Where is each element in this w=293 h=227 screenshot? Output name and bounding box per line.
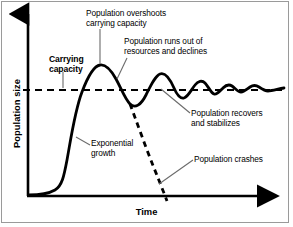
leader-crashes <box>159 160 193 184</box>
population-growth-figure: Population overshoots carrying capacity … <box>0 0 293 227</box>
annotation-population-crashes: Population crashes <box>194 155 263 165</box>
annotation-population-overshoots: Population overshoots carrying capacity <box>86 9 166 28</box>
population-crash-curve <box>130 104 167 201</box>
population-curve <box>29 65 284 195</box>
annotation-carrying-capacity: Carrying capacity <box>49 54 84 74</box>
leader-runs-out <box>117 58 127 79</box>
annotation-exponential-growth: Exponential growth <box>91 139 133 158</box>
x-axis-label: Time <box>0 206 293 217</box>
y-axis-label: Population size <box>11 59 22 169</box>
annotation-population-recovers: Population recovers and stabilizes <box>191 109 262 128</box>
annotation-population-runs-out: Population runs out of resources and dec… <box>124 37 207 56</box>
leader-exponential <box>76 137 90 145</box>
